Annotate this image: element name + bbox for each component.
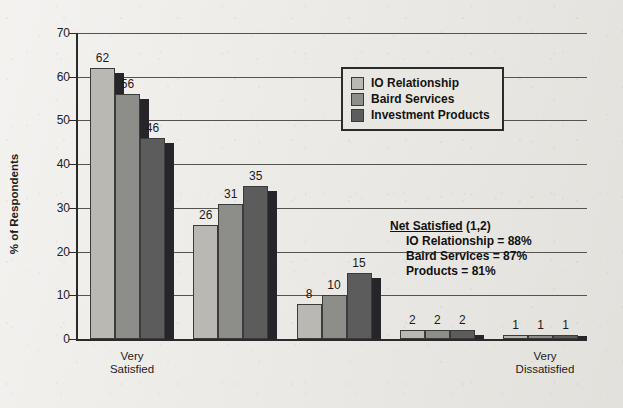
bar-value-label: 2 [409, 313, 416, 327]
legend-item-1[interactable]: IO Relationship [351, 75, 490, 91]
y-axis-tick-labels: 010203040506070 [40, 33, 70, 341]
bar-value-label: 1 [512, 318, 519, 332]
legend-item-2[interactable]: Baird Services [351, 91, 490, 107]
y-tick-label-30: 30 [42, 201, 70, 215]
legend: IO RelationshipBaird ServicesInvestment … [341, 67, 504, 131]
bar[interactable] [322, 295, 347, 339]
y-tick-mark-10 [69, 295, 76, 296]
bar-value-label: 2 [459, 313, 466, 327]
bar-value-label: 31 [224, 187, 237, 201]
bar-group-5: 111 [503, 33, 587, 339]
bar[interactable] [90, 68, 115, 339]
legend-swatch-icon [351, 93, 364, 106]
bar-group-1: 625646 [90, 33, 174, 339]
net-satisfied-line-3: Products = 81% [390, 264, 532, 279]
net-satisfied-line-2: Baird Services = 87% [390, 249, 532, 264]
bar-value-label: 2 [434, 313, 441, 327]
net-satisfied-title-suffix: (1,2) [463, 219, 491, 233]
y-tick-mark-60 [69, 77, 76, 78]
y-tick-label-60: 60 [42, 70, 70, 84]
y-tick-label-70: 70 [42, 26, 70, 40]
bar-value-label: 26 [199, 208, 212, 222]
y-tick-label-50: 50 [42, 113, 70, 127]
legend-item-3[interactable]: Investment Products [351, 107, 490, 123]
y-tick-label-40: 40 [42, 157, 70, 171]
legend-label: Investment Products [371, 108, 490, 122]
y-axis-line [76, 33, 78, 341]
legend-swatch-icon [351, 109, 364, 122]
bar-value-label: 1 [537, 318, 544, 332]
net-satisfied-title-underlined: Net Satisfied [390, 219, 463, 233]
x-axis-line [76, 339, 587, 341]
y-tick-mark-20 [69, 252, 76, 253]
y-tick-label-20: 20 [42, 245, 70, 259]
bar[interactable] [140, 138, 165, 339]
y-tick-mark-0 [69, 339, 76, 340]
bar-value-label: 1 [562, 318, 569, 332]
net-satisfied-annotation: Net Satisfied (1,2) IO Relationship = 88… [390, 219, 532, 279]
x-axis-endpoint-label: Very Satisfied [110, 350, 154, 376]
bar[interactable] [297, 304, 322, 339]
bar-chart: % of Respondents 010203040506070 6256462… [0, 0, 623, 408]
y-tick-mark-50 [69, 120, 76, 121]
y-tick-mark-40 [69, 164, 76, 165]
net-satisfied-title: Net Satisfied (1,2) [390, 219, 532, 233]
bar[interactable] [243, 186, 268, 339]
bar-value-label: 35 [249, 169, 262, 183]
bar[interactable] [400, 330, 425, 339]
y-axis-title: % of Respondents [8, 154, 20, 254]
bar-value-label: 62 [96, 51, 109, 65]
bar[interactable] [425, 330, 450, 339]
bar[interactable] [503, 335, 528, 339]
bar[interactable] [193, 225, 218, 339]
legend-label: Baird Services [371, 92, 454, 106]
y-tick-label-0: 0 [42, 332, 70, 346]
x-axis-endpoint-label: Very Dissatisfied [516, 350, 575, 376]
legend-label: IO Relationship [371, 76, 459, 90]
bar-value-label: 46 [146, 121, 159, 135]
bar[interactable] [115, 94, 140, 339]
legend-swatch-icon [351, 77, 364, 90]
bar[interactable] [553, 335, 578, 339]
bar[interactable] [450, 330, 475, 339]
bar-value-label: 15 [352, 256, 365, 270]
y-tick-mark-70 [69, 33, 76, 34]
y-tick-mark-30 [69, 208, 76, 209]
bar-value-label: 56 [121, 77, 134, 91]
bar[interactable] [347, 273, 372, 339]
bar-group-2: 263135 [193, 33, 277, 339]
net-satisfied-line-1: IO Relationship = 88% [390, 234, 532, 249]
bar-value-label: 10 [327, 278, 340, 292]
bar[interactable] [528, 335, 553, 339]
bar-value-label: 8 [306, 287, 313, 301]
bar[interactable] [218, 204, 243, 340]
y-tick-label-10: 10 [42, 288, 70, 302]
plot-area: 62564626313581015222111 [76, 33, 587, 341]
